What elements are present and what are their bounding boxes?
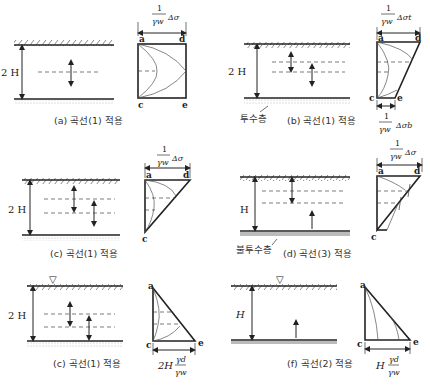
panel-c: 2 H (c) 곡선(1) 적용 1 γw Δσ a d c [8, 145, 190, 259]
isochrone-chart-c: 1 γw Δσ a d c [142, 145, 190, 244]
svg-text:Δσb: Δσb [395, 121, 412, 130]
svg-text:c: c [369, 93, 375, 103]
svg-text:1: 1 [162, 145, 167, 154]
depth-label: 2 H [8, 204, 27, 215]
svg-text:c: c [357, 339, 363, 349]
isochrone-chart-f: a c e H γd γw [357, 280, 419, 377]
svg-text:γw: γw [379, 125, 391, 134]
isochrone-chart-e: a c e 2H γd γw [146, 281, 204, 377]
panel-e: ▽ 2 H (c) 곡선(1) 적용 a c e 2H γd [8, 274, 204, 377]
panel-d: H 불투수층 (d) 곡선(3) 적용 1 γw Δσ a d c [236, 139, 422, 259]
consolidation-diagrams: 2 H (a) 곡선(1) 적용 1 γw Δσ a d c e [0, 0, 430, 389]
soil-profile-e: ▽ [27, 274, 123, 347]
caption: (f) 곡선(2) 적용 [287, 358, 353, 369]
water-table-icon: ▽ [276, 274, 284, 285]
svg-text:γw: γw [157, 158, 169, 167]
svg-text:γd: γd [176, 355, 186, 364]
depth-label: H [235, 309, 245, 320]
svg-text:a: a [148, 281, 154, 291]
svg-text:γw: γw [175, 368, 187, 377]
svg-text:Δσ: Δσ [171, 154, 184, 163]
svg-text:γw: γw [381, 17, 393, 26]
isochrone-chart-b: 1 γw Δσt a d c e 1 γw Δσb [369, 4, 422, 134]
caption: (c) 곡선(1) 적용 [53, 358, 121, 369]
svg-text:1: 1 [395, 139, 400, 148]
svg-text:γd: γd [389, 355, 399, 364]
caption: (c) 곡선(1) 적용 [50, 248, 118, 259]
soil-profile-a [14, 40, 114, 105]
depth-label: 2 H [1, 67, 20, 78]
depth-label: 2 H [228, 66, 247, 77]
soil-profile-b [244, 42, 350, 112]
caption: (d) 곡선(3) 적용 [283, 248, 352, 259]
water-table-icon: ▽ [49, 274, 57, 285]
svg-text:d: d [414, 166, 421, 176]
layer-label: 투수층 [240, 113, 267, 124]
svg-text:γw: γw [390, 152, 402, 161]
soil-profile-f: ▽ [231, 274, 337, 344]
svg-text:2H: 2H [157, 360, 173, 371]
layer-label: 불투수층 [236, 244, 272, 255]
svg-text:a: a [146, 170, 152, 180]
svg-text:a: a [378, 33, 384, 43]
svg-text:a: a [139, 34, 145, 44]
panel-b: 2 H 투수층 (b) 곡선(1) 적용 1 γw Δσt a d c e 1 [228, 4, 422, 134]
svg-text:1: 1 [157, 4, 162, 13]
svg-text:c: c [138, 100, 144, 110]
svg-text:e: e [397, 93, 403, 103]
svg-text:c: c [142, 234, 148, 244]
svg-text:e: e [413, 337, 419, 347]
svg-text:Δσt: Δσt [396, 13, 412, 22]
svg-text:c: c [146, 340, 152, 350]
panel-f: ▽ H (f) 곡선(2) 적용 a c e H γd γw [231, 274, 419, 377]
svg-text:γw: γw [388, 368, 400, 377]
isochrone-chart-a: 1 γw Δσ a d c e [138, 4, 188, 110]
svg-text:d: d [415, 33, 422, 43]
depth-label: H [240, 204, 249, 215]
soil-profile-c [22, 178, 120, 241]
svg-text:d: d [179, 34, 186, 44]
soil-profile-d [240, 175, 350, 245]
svg-text:H: H [375, 360, 385, 371]
svg-text:e: e [198, 338, 204, 348]
caption: (b) 곡선(1) 적용 [287, 115, 356, 126]
svg-text:a: a [378, 166, 384, 176]
svg-text:d: d [183, 170, 190, 180]
svg-text:Δσ: Δσ [167, 13, 180, 22]
panel-a: 2 H (a) 곡선(1) 적용 1 γw Δσ a d c e [1, 4, 188, 126]
svg-text:Δσ: Δσ [404, 148, 417, 157]
svg-text:c: c [371, 232, 377, 242]
svg-text:1: 1 [384, 112, 389, 121]
svg-text:a: a [360, 280, 366, 290]
svg-text:e: e [182, 100, 188, 110]
svg-text:1: 1 [386, 4, 391, 13]
svg-text:γw: γw [152, 17, 164, 26]
depth-label: 2 H [8, 310, 27, 321]
isochrone-chart-d: 1 γw Δσ a d c [371, 139, 422, 242]
caption: (a) 곡선(1) 적용 [54, 115, 123, 126]
